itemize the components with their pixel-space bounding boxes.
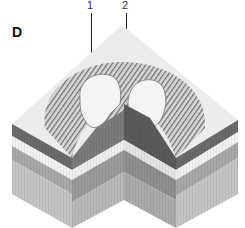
block-diagram <box>0 0 245 228</box>
